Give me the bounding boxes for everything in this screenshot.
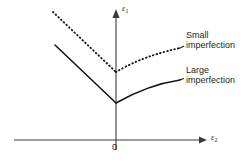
origin-label: 0 [112, 142, 117, 152]
curve-small-left-branch [53, 12, 116, 72]
curve-large-left-branch [55, 45, 116, 103]
x-axis [14, 137, 207, 144]
x-axis-label: ε2 [211, 133, 217, 142]
y-axis [112, 9, 119, 150]
curve-small-right-branch [116, 48, 180, 72]
curve-large-imperfection [55, 45, 180, 103]
annotation-large-line2: imperfection [186, 75, 235, 85]
y-axis-label: ε1 [122, 4, 128, 13]
annotation-small-line1: Small [186, 30, 235, 40]
annotation-small-imperfection: Small imperfection [186, 30, 235, 50]
annotation-small-line2: imperfection [186, 40, 235, 50]
small-label-leader [179, 46, 184, 49]
strain-path-diagram: Small imperfection Large imperfection ε1… [0, 0, 250, 161]
annotation-large-imperfection: Large imperfection [186, 65, 235, 85]
curve-large-right-branch [116, 80, 180, 103]
y-axis-arrowhead [112, 9, 119, 18]
large-label-leader [179, 79, 184, 81]
annotation-large-line1: Large [186, 65, 235, 75]
x-axis-arrowhead [199, 137, 207, 144]
